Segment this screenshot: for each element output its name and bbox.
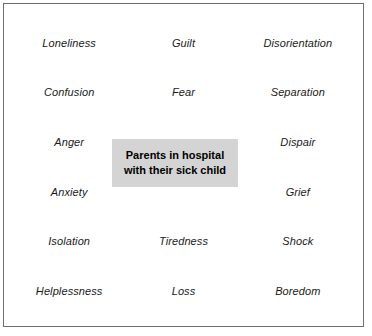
emotion-label-confusion: Confusion [12, 68, 126, 118]
emotion-label-loneliness: Loneliness [12, 18, 126, 68]
center-subject-box: Parents in hospital with their sick chil… [112, 139, 238, 187]
emotion-label-disorientation: Disorientation [241, 18, 355, 68]
center-subject-line-1: Parents in hospital [126, 148, 224, 163]
emotion-label-boredom: Boredom [241, 266, 355, 316]
emotion-label-isolation: Isolation [12, 217, 126, 267]
emotion-label-anxiety: Anxiety [12, 167, 126, 217]
emotion-label-shock: Shock [241, 217, 355, 267]
emotion-label-fear: Fear [126, 68, 240, 118]
emotion-label-helplessness: Helplessness [12, 266, 126, 316]
emotion-label-guilt: Guilt [126, 18, 240, 68]
emotion-label-anger: Anger [12, 117, 126, 167]
emotion-label-dispair: Dispair [241, 117, 355, 167]
emotion-label-separation: Separation [241, 68, 355, 118]
center-subject-line-2: with their sick child [124, 163, 226, 178]
emotion-label-tiredness: Tiredness [126, 217, 240, 267]
diagram-root: Loneliness Guilt Disorientation Confusio… [0, 0, 372, 336]
emotion-label-grief: Grief [241, 167, 355, 217]
emotion-label-loss: Loss [126, 266, 240, 316]
